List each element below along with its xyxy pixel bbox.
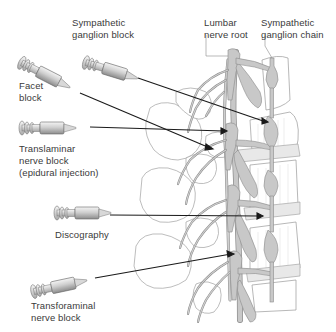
syringe-discography xyxy=(54,206,111,220)
label-facet-block: Facet block xyxy=(19,80,43,104)
label-lumbar-nerve-root: Lumbar nerve root xyxy=(204,17,248,41)
label-discography: Discography xyxy=(55,229,109,241)
syringe-transforaminal-nerve-block xyxy=(30,274,89,300)
syringe-sympathetic-ganglion-block xyxy=(81,55,140,85)
label-sympathetic-ganglion-chain: Sympathetic ganglion chain xyxy=(261,17,324,41)
label-translaminar-nerve-block: Translaminar nerve block (epidural injec… xyxy=(19,143,99,179)
label-transforaminal-nerve-block: Transforaminal nerve block xyxy=(31,300,95,324)
label-sympathetic-ganglion-block: Sympathetic ganglion block xyxy=(72,17,134,41)
syringe-translaminar-nerve-block xyxy=(19,121,76,135)
